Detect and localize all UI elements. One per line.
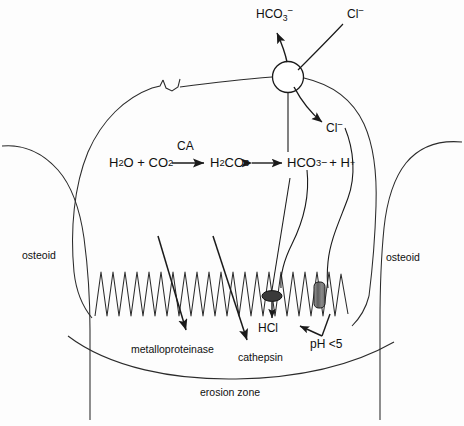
ph-pointer-arrow	[300, 314, 330, 336]
cl-charge: −	[358, 5, 364, 16]
osteoid-right-label: osteoid	[386, 252, 420, 263]
diagram-canvas	[0, 0, 464, 426]
chloride-transport-curve	[327, 128, 353, 288]
osteoid-left-label: osteoid	[22, 250, 56, 261]
erosion-zone-floor	[68, 336, 394, 379]
eq3-h-charge: +	[350, 158, 355, 168]
osteoclast-cell-membrane	[73, 77, 377, 326]
metalloproteinase-label: metalloproteinase	[131, 344, 214, 355]
hco3-charge: −	[287, 5, 293, 16]
eq2-co: CO	[225, 155, 245, 170]
cathepsin-label: cathepsin	[238, 352, 283, 363]
hco3-base: HCO	[256, 7, 283, 21]
ph-label: pH <5	[310, 338, 342, 350]
chloride-cytoplasm-label: Cl−	[326, 120, 343, 134]
eq3-hco: HCO	[287, 155, 316, 170]
eq2-h: H	[210, 155, 219, 170]
erosion-zone-label: erosion zone	[200, 387, 260, 398]
equation-intermediate: H2CO3	[210, 155, 249, 170]
eq-o-plus-co: O + CO	[124, 155, 168, 170]
osteoclast-diagram-figure: HCO3− Cl− Cl− CA H2O + CO2 H2CO3 HCO3−+ …	[0, 0, 464, 426]
osteoid-left-surface	[2, 146, 90, 420]
bicarbonate-export-arrow	[277, 33, 287, 62]
cl-charge-cyto: −	[337, 119, 343, 130]
equation-reactants: H2O + CO2	[109, 155, 173, 170]
anion-exchanger[interactable]	[273, 62, 304, 93]
eq3-plus-h: + H	[329, 155, 350, 170]
equation-products: HCO3−+ H+	[287, 155, 355, 170]
chloride-channel[interactable]	[262, 291, 282, 302]
bicarbonate-out-label: HCO3−	[256, 6, 293, 22]
hcl-label: HCl	[258, 322, 278, 334]
eq3-hco-charge: −	[321, 157, 327, 168]
proton-transport-curve	[281, 170, 308, 288]
eq-h: H	[109, 155, 118, 170]
eq2-co-sub: 3	[244, 158, 249, 168]
ruffled-border	[95, 272, 348, 316]
chloride-out-label: Cl−	[347, 6, 364, 20]
cl-base-cyto: Cl	[326, 121, 337, 135]
cl-base: Cl	[347, 7, 358, 21]
osteoid-right-surface	[380, 142, 462, 420]
proton-pump[interactable]	[314, 282, 325, 308]
carbonic-anhydrase-label: CA	[177, 140, 194, 152]
cathepsin-arrow	[213, 236, 247, 340]
eq-co-sub: 2	[168, 158, 173, 168]
